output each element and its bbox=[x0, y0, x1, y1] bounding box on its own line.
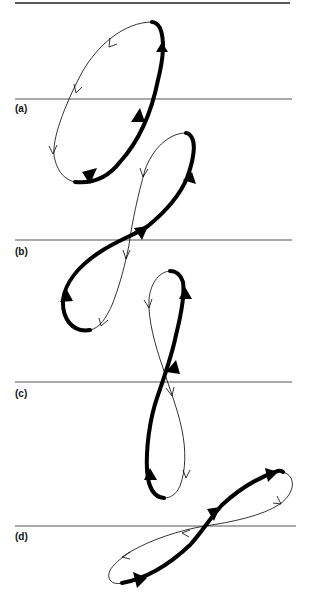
panel-c: (c) bbox=[15, 271, 292, 498]
thin-arrowhead-icon bbox=[273, 496, 281, 504]
diagram-canvas: (a) (b) bbox=[0, 0, 311, 600]
thin-path-c bbox=[149, 271, 185, 498]
diagram-figure: (a) (b) bbox=[0, 0, 311, 600]
panel-d: (d) bbox=[15, 468, 296, 588]
thick-path-d bbox=[122, 471, 283, 583]
thin-arrowhead-icon bbox=[49, 145, 57, 154]
panel-label-c: (c) bbox=[15, 388, 27, 399]
thin-arrowhead-icon bbox=[123, 250, 130, 259]
panel-label-d: (d) bbox=[15, 531, 28, 542]
panel-label-b: (b) bbox=[15, 246, 28, 257]
thin-path-d bbox=[109, 472, 293, 584]
thin-path-a bbox=[54, 22, 152, 182]
thin-arrowhead-icon bbox=[122, 552, 130, 559]
arrowhead-icon bbox=[179, 287, 192, 299]
thick-path-a bbox=[75, 22, 163, 182]
panel-b: (b) bbox=[15, 133, 292, 330]
thick-path-b bbox=[63, 133, 194, 330]
arrowhead-icon bbox=[131, 108, 145, 122]
thick-path-c bbox=[147, 271, 184, 498]
arrowhead-icon bbox=[156, 42, 168, 52]
panel-a: (a) bbox=[15, 22, 292, 184]
thin-arrowhead-icon bbox=[144, 299, 152, 308]
panel-label-a: (a) bbox=[15, 103, 27, 114]
thin-arrowhead-icon bbox=[99, 318, 108, 326]
thin-arrowhead-icon bbox=[109, 38, 117, 47]
